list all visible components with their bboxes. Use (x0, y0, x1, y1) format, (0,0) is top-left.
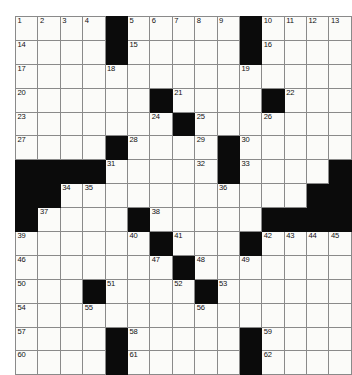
letter-cell[interactable]: 6 (150, 17, 172, 41)
letter-cell[interactable] (195, 88, 217, 112)
letter-cell[interactable]: 59 (262, 327, 284, 351)
letter-cell[interactable]: 61 (127, 351, 149, 375)
letter-cell[interactable] (83, 232, 105, 256)
letter-cell[interactable]: 60 (16, 351, 38, 375)
letter-cell[interactable] (172, 160, 194, 184)
letter-cell[interactable] (38, 232, 60, 256)
letter-cell[interactable] (217, 64, 239, 88)
letter-cell[interactable] (262, 279, 284, 303)
letter-cell[interactable] (60, 88, 82, 112)
letter-cell[interactable]: 4 (83, 17, 105, 41)
letter-cell[interactable] (307, 303, 329, 327)
letter-cell[interactable] (217, 208, 239, 232)
letter-cell[interactable] (172, 40, 194, 64)
letter-cell[interactable]: 52 (172, 279, 194, 303)
letter-cell[interactable]: 20 (16, 88, 38, 112)
letter-cell[interactable] (83, 255, 105, 279)
letter-cell[interactable]: 54 (16, 303, 38, 327)
letter-cell[interactable]: 7 (172, 17, 194, 41)
letter-cell[interactable]: 1 (16, 17, 38, 41)
letter-cell[interactable] (329, 303, 351, 327)
letter-cell[interactable]: 45 (329, 232, 351, 256)
letter-cell[interactable] (150, 303, 172, 327)
letter-cell[interactable]: 17 (16, 64, 38, 88)
letter-cell[interactable] (284, 160, 306, 184)
letter-cell[interactable]: 22 (284, 88, 306, 112)
letter-cell[interactable]: 33 (239, 160, 261, 184)
letter-cell[interactable] (172, 64, 194, 88)
letter-cell[interactable]: 48 (195, 255, 217, 279)
letter-cell[interactable] (284, 136, 306, 160)
letter-cell[interactable]: 2 (38, 17, 60, 41)
letter-cell[interactable] (172, 184, 194, 208)
letter-cell[interactable]: 23 (16, 112, 38, 136)
letter-cell[interactable]: 19 (239, 64, 261, 88)
letter-cell[interactable] (150, 136, 172, 160)
letter-cell[interactable] (38, 64, 60, 88)
letter-cell[interactable] (150, 160, 172, 184)
letter-cell[interactable]: 29 (195, 136, 217, 160)
letter-cell[interactable] (127, 279, 149, 303)
letter-cell[interactable] (38, 279, 60, 303)
letter-cell[interactable] (239, 88, 261, 112)
letter-cell[interactable] (127, 303, 149, 327)
letter-cell[interactable]: 62 (262, 351, 284, 375)
letter-cell[interactable] (284, 255, 306, 279)
letter-cell[interactable]: 58 (127, 327, 149, 351)
letter-cell[interactable] (217, 255, 239, 279)
letter-cell[interactable]: 53 (217, 279, 239, 303)
letter-cell[interactable]: 43 (284, 232, 306, 256)
letter-cell[interactable]: 16 (262, 40, 284, 64)
letter-cell[interactable]: 21 (172, 88, 194, 112)
letter-cell[interactable] (239, 279, 261, 303)
letter-cell[interactable] (239, 184, 261, 208)
letter-cell[interactable] (38, 136, 60, 160)
letter-cell[interactable] (195, 327, 217, 351)
letter-cell[interactable] (105, 184, 127, 208)
letter-cell[interactable]: 26 (262, 112, 284, 136)
letter-cell[interactable] (284, 112, 306, 136)
letter-cell[interactable] (329, 88, 351, 112)
letter-cell[interactable] (60, 208, 82, 232)
letter-cell[interactable] (284, 327, 306, 351)
letter-cell[interactable] (307, 255, 329, 279)
letter-cell[interactable] (195, 40, 217, 64)
letter-cell[interactable] (195, 351, 217, 375)
letter-cell[interactable] (307, 351, 329, 375)
letter-cell[interactable] (262, 184, 284, 208)
letter-cell[interactable] (105, 303, 127, 327)
letter-cell[interactable] (217, 88, 239, 112)
letter-cell[interactable]: 15 (127, 40, 149, 64)
letter-cell[interactable] (262, 136, 284, 160)
letter-cell[interactable] (105, 232, 127, 256)
letter-cell[interactable] (38, 112, 60, 136)
letter-cell[interactable] (83, 40, 105, 64)
letter-cell[interactable] (60, 279, 82, 303)
letter-cell[interactable] (329, 136, 351, 160)
letter-cell[interactable]: 24 (150, 112, 172, 136)
letter-cell[interactable] (329, 64, 351, 88)
letter-cell[interactable]: 13 (329, 17, 351, 41)
letter-cell[interactable] (329, 255, 351, 279)
letter-cell[interactable]: 50 (16, 279, 38, 303)
letter-cell[interactable] (150, 327, 172, 351)
letter-cell[interactable] (172, 327, 194, 351)
letter-cell[interactable]: 27 (16, 136, 38, 160)
letter-cell[interactable] (60, 303, 82, 327)
letter-cell[interactable]: 12 (307, 17, 329, 41)
letter-cell[interactable] (239, 303, 261, 327)
letter-cell[interactable]: 10 (262, 17, 284, 41)
letter-cell[interactable] (307, 160, 329, 184)
letter-cell[interactable] (83, 136, 105, 160)
letter-cell[interactable]: 55 (83, 303, 105, 327)
letter-cell[interactable] (38, 327, 60, 351)
letter-cell[interactable] (38, 303, 60, 327)
letter-cell[interactable]: 49 (239, 255, 261, 279)
letter-cell[interactable] (83, 88, 105, 112)
letter-cell[interactable] (127, 64, 149, 88)
letter-cell[interactable] (284, 351, 306, 375)
letter-cell[interactable]: 36 (217, 184, 239, 208)
letter-cell[interactable] (150, 351, 172, 375)
letter-cell[interactable] (284, 64, 306, 88)
letter-cell[interactable]: 28 (127, 136, 149, 160)
